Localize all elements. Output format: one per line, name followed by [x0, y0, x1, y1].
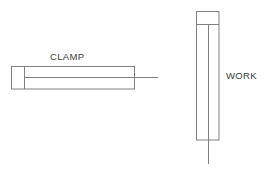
- technical-line-drawing: [0, 0, 268, 170]
- clamp-label: CLAMP: [50, 51, 84, 62]
- work-outer-rect: [197, 12, 220, 141]
- drawing-canvas: CLAMP WORK: [0, 0, 268, 170]
- work-part: [197, 12, 220, 165]
- work-label: WORK: [226, 70, 257, 81]
- clamp-part: [12, 67, 159, 90]
